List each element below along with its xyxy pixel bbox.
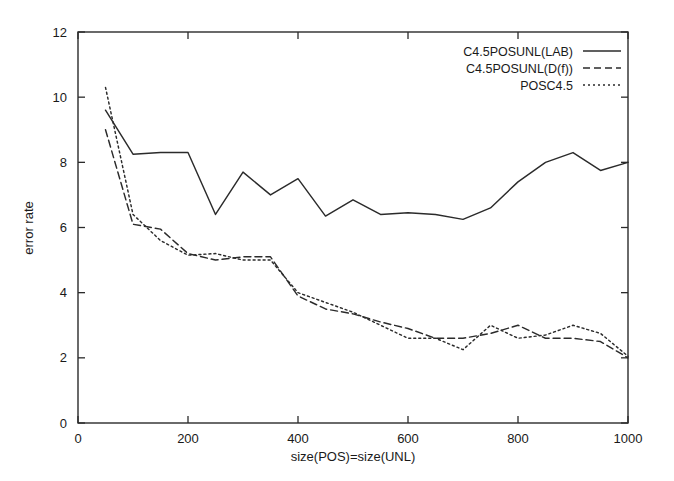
chart-legend: C4.5POSUNL(LAB)C4.5POSUNL(D(f))POSC4.5 — [463, 45, 621, 93]
y-tick-label: 4 — [60, 285, 67, 300]
series-line-1 — [106, 130, 629, 358]
data-series-group — [106, 87, 629, 357]
chart-figure: 024681012 02004006008001000 C4.5POSUNL(L… — [0, 0, 674, 481]
x-tick-label: 1000 — [614, 431, 643, 446]
y-tick-label: 6 — [60, 220, 67, 235]
y-axis-title: error rate — [21, 201, 36, 254]
x-tick-label: 0 — [74, 431, 81, 446]
y-tick-label: 8 — [60, 155, 67, 170]
x-axis-title: size(POS)=size(UNL) — [291, 449, 416, 464]
y-tick-label: 2 — [60, 350, 67, 365]
legend-label-0: C4.5POSUNL(LAB) — [463, 45, 573, 59]
series-line-0 — [106, 110, 629, 219]
y-tick-label: 12 — [53, 25, 67, 40]
y-tick-label: 0 — [60, 416, 67, 431]
legend-label-1: C4.5POSUNL(D(f)) — [466, 62, 573, 76]
legend-label-2: POSC4.5 — [520, 79, 573, 93]
x-tick-label: 800 — [507, 431, 529, 446]
x-tick-label: 400 — [287, 431, 309, 446]
x-tick-label: 200 — [177, 431, 199, 446]
series-line-2 — [106, 87, 629, 356]
x-tick-label: 600 — [397, 431, 419, 446]
error-rate-line-chart: 024681012 02004006008001000 C4.5POSUNL(L… — [0, 0, 674, 481]
y-tick-label: 10 — [53, 90, 67, 105]
